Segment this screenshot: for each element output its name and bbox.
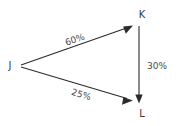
edge-j-to-l-label: 25% [70,87,92,103]
edge-k-to-l-arrowhead [135,95,142,104]
edge-j-to-k-line [21,28,128,66]
directed-graph-svg: 60% 25% 30% J K L [0,0,179,126]
node-label-j: J [8,60,12,71]
edge-j-to-k-arrowhead [123,26,133,34]
diagram-canvas: 60% 25% 30% J K L [0,0,179,126]
node-label-k: K [139,9,146,20]
edge-k-to-l: 30% [135,26,167,104]
edge-j-to-k-label: 60% [64,31,87,47]
edge-j-to-k: 60% [21,26,133,66]
edge-j-to-l: 25% [21,67,133,105]
node-label-l: L [139,108,145,119]
edge-j-to-l-arrowhead [122,97,133,105]
edge-k-to-l-label: 30% [147,61,167,71]
